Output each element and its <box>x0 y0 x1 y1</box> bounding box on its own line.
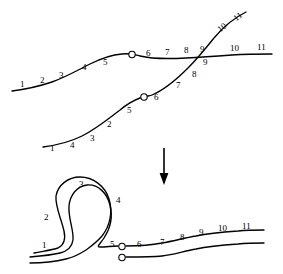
bottom-label-6-5: 6 <box>137 240 142 249</box>
bottom-upper-marker <box>119 243 125 249</box>
top-label-6-5: 6 <box>146 49 151 58</box>
top-label-8-7: 8 <box>184 46 189 55</box>
bottom-label-2-1: 2 <box>44 213 49 222</box>
top-panel-group <box>12 12 272 147</box>
bottom-label-10-9: 10 <box>218 224 227 233</box>
top-label-3-2: 3 <box>59 71 64 80</box>
top-upper-strand <box>12 54 272 91</box>
top-label-11-10: 11 <box>257 43 266 52</box>
top-label-7-6: 7 <box>165 48 170 57</box>
top-label-9-8: 9 <box>200 45 205 54</box>
top-label-10-9: 10 <box>230 44 239 53</box>
bottom-label-11-10: 11 <box>242 222 251 231</box>
top-lower-strand-marker <box>141 94 147 100</box>
top-label-5-4: 5 <box>103 58 108 67</box>
top-label-9-19: 9 <box>203 58 208 67</box>
top-label-4-3: 4 <box>82 63 87 72</box>
bottom-panel-group <box>30 177 264 263</box>
top-label-5-15: 5 <box>127 106 132 115</box>
top-label-3-13: 3 <box>90 134 95 143</box>
top-label-7-17: 7 <box>176 81 181 90</box>
bottom-label-8-7: 8 <box>180 233 185 242</box>
transformation-arrow-head <box>160 173 169 185</box>
top-label-8-18: 8 <box>192 70 197 79</box>
top-label-4-12: 4 <box>70 141 75 150</box>
bottom-label-5-4: 5 <box>110 240 115 249</box>
bottom-label-3-2: 3 <box>79 180 84 189</box>
top-lower-strand <box>43 12 246 147</box>
top-upper-strand-marker <box>129 51 135 57</box>
bottom-lower-marker <box>119 254 125 260</box>
top-label-6-16: 6 <box>154 93 159 102</box>
top-label-2-14: 2 <box>107 120 112 129</box>
top-label-1-11: 1 <box>50 144 55 153</box>
top-label-2-1: 2 <box>40 76 45 85</box>
top-label-1-0: 1 <box>20 80 25 89</box>
bottom-label-9-8: 9 <box>199 228 204 237</box>
bottom-label-1-0: 1 <box>42 241 47 250</box>
transformation-arrow-group <box>160 148 169 185</box>
bottom-label-7-6: 7 <box>160 238 165 247</box>
figure-canvas <box>0 0 283 274</box>
figure-root: 123456789101114325678910111234567891011 <box>0 0 283 274</box>
bottom-label-4-3: 4 <box>116 196 121 205</box>
